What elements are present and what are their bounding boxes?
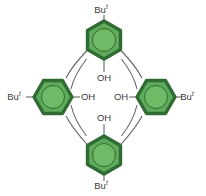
label-tbutyl-bottom: But xyxy=(94,178,109,190)
ring-bottom-aromatic-circle xyxy=(93,144,116,167)
cavity-arc-bottom-left xyxy=(71,105,87,136)
structure-canvas: But But But But OH OH OH OH xyxy=(0,0,206,196)
chemical-structure-figure: But But But But OH OH OH OH xyxy=(0,0,206,196)
ring-top-aromatic-circle xyxy=(93,29,116,52)
ring-bottom xyxy=(88,136,121,174)
ring-left xyxy=(34,81,72,114)
ring-left-aromatic-circle xyxy=(42,86,65,109)
label-oh-left: OH xyxy=(81,91,95,102)
label-oh-right: OH xyxy=(114,91,128,102)
cavity-arc-bottom-right xyxy=(122,105,138,136)
cavity-arc-top-right xyxy=(122,59,138,89)
ring-top xyxy=(88,21,121,59)
label-tbutyl-right: But xyxy=(180,89,195,101)
label-oh-bottom: OH xyxy=(97,112,111,123)
ring-right-aromatic-circle xyxy=(145,86,168,109)
ring-right xyxy=(137,81,175,114)
label-tbutyl-top: But xyxy=(94,2,109,14)
label-tbutyl-left: But xyxy=(7,89,22,101)
label-oh-top: OH xyxy=(97,72,111,83)
cavity-arc-top-left xyxy=(71,59,87,89)
